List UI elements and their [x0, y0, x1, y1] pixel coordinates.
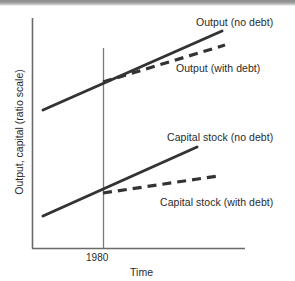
y-axis-label: Output, capital (ratio scale) — [13, 47, 25, 217]
chart-figure: Output, capital (ratio scale) Output (no… — [0, 0, 295, 281]
annotation-capital-no-debt: Capital stock (no debt) — [167, 131, 273, 143]
x-axis-tick-label-1980: 1980 — [86, 252, 108, 264]
series-line-capital-with-debt — [103, 176, 218, 193]
annotation-capital-with-debt: Capital stock (with debt) — [160, 196, 273, 208]
annotation-output-no-debt: Output (no debt) — [196, 16, 273, 28]
annotation-output-with-debt: Output (with debt) — [176, 62, 260, 74]
x-axis-label: Time — [130, 266, 153, 278]
